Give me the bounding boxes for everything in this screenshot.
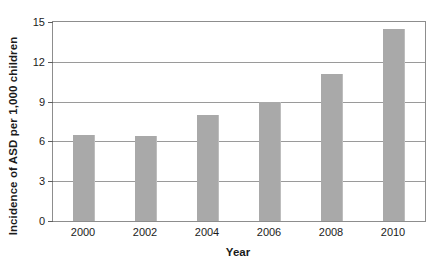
y-tick-label: 15 <box>33 16 45 28</box>
chart-figure: Incidence of ASD per 1,000 children 0369… <box>0 0 438 272</box>
y-tick-label: 6 <box>39 135 45 147</box>
y-axis-title: Incidence of ASD per 1,000 children <box>0 0 26 272</box>
bar <box>383 29 405 221</box>
x-tick-label: 2000 <box>71 226 95 238</box>
y-tick-mark <box>48 221 53 222</box>
bar <box>259 102 281 221</box>
x-tick-label: 2008 <box>319 226 343 238</box>
y-tick-label: 0 <box>39 215 45 227</box>
y-tick-mark <box>48 22 53 23</box>
y-tick-mark <box>48 62 53 63</box>
x-tick-label: 2006 <box>257 226 281 238</box>
y-tick-label: 3 <box>39 175 45 187</box>
y-tick-mark <box>48 102 53 103</box>
plot-area: 03691215 <box>52 21 426 222</box>
bar <box>73 135 95 221</box>
y-tick-mark <box>48 141 53 142</box>
bar <box>197 115 219 221</box>
y-tick-mark <box>48 181 53 182</box>
x-tick-label: 2010 <box>381 226 405 238</box>
gridline <box>53 141 425 142</box>
x-tick-label: 2004 <box>195 226 219 238</box>
gridline <box>53 62 425 63</box>
x-axis-title: Year <box>52 246 424 258</box>
x-tick-label: 2002 <box>133 226 157 238</box>
bar <box>321 74 343 221</box>
gridline <box>53 181 425 182</box>
bar <box>135 136 157 221</box>
y-tick-label: 9 <box>39 96 45 108</box>
y-tick-label: 12 <box>33 56 45 68</box>
gridline <box>53 102 425 103</box>
